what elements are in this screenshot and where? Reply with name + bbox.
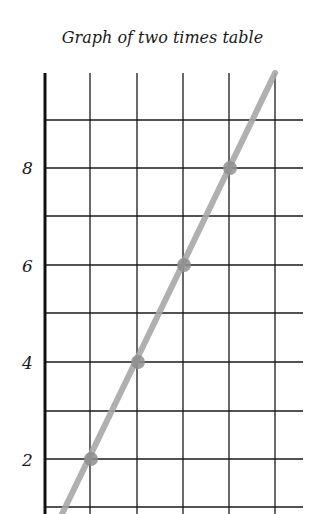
chart-plot: 8 6 4 2: [0, 0, 325, 514]
data-line: [62, 73, 275, 514]
grid: [45, 73, 303, 514]
y-tick-label-8: 8: [22, 158, 33, 178]
y-tick-label-6: 6: [22, 256, 33, 276]
y-tick-label-2: 2: [21, 450, 33, 470]
y-tick-label-4: 4: [21, 353, 33, 373]
